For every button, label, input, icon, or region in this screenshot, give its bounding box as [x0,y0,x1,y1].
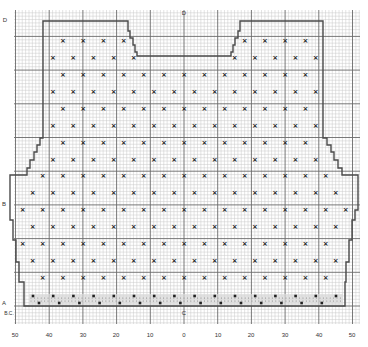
svg-text:×: × [201,206,207,214]
svg-text:×: × [80,139,86,147]
svg-text:×: × [262,172,268,180]
svg-text:×: × [191,156,197,164]
svg-text:×: × [272,189,278,197]
svg-text:×: × [272,88,278,96]
axis-tick-label: 30 [282,332,289,338]
svg-text:×: × [262,71,268,79]
svg-text:×: × [30,189,36,197]
svg-text:×: × [242,206,248,214]
svg-text:×: × [40,240,46,248]
svg-text:×: × [111,257,117,265]
left-bottom-label-a: A [2,300,6,306]
svg-text:×: × [80,206,86,214]
svg-text:×: × [272,122,278,130]
axis-tick-label: 50 [12,332,19,338]
svg-text:×: × [252,223,258,231]
svg-text:×: × [242,37,248,45]
svg-text:×: × [272,156,278,164]
svg-text:×: × [90,88,96,96]
svg-text:×: × [151,223,157,231]
svg-text:×: × [161,274,167,282]
top-center-label: D [182,10,186,16]
svg-text:×: × [131,223,137,231]
svg-text:×: × [121,139,127,147]
svg-text:×: × [302,105,308,113]
svg-text:×: × [302,37,308,45]
svg-text:×: × [171,156,177,164]
svg-text:×: × [90,189,96,197]
svg-text:×: × [131,122,137,130]
svg-text:×: × [60,71,66,79]
svg-text:×: × [181,274,187,282]
svg-text:×: × [70,189,76,197]
svg-text:×: × [111,156,117,164]
svg-text:×: × [282,37,288,45]
svg-text:×: × [60,139,66,147]
svg-text:×: × [131,156,137,164]
svg-text:×: × [181,240,187,248]
svg-text:×: × [302,172,308,180]
svg-text:×: × [282,206,288,214]
svg-text:×: × [40,274,46,282]
svg-text:×: × [232,223,238,231]
svg-text:×: × [262,240,268,248]
svg-text:×: × [30,223,36,231]
svg-text:×: × [302,139,308,147]
svg-text:×: × [272,54,278,62]
svg-text:×: × [313,257,319,265]
svg-text:×: × [181,172,187,180]
svg-text:×: × [242,172,248,180]
svg-text:×: × [20,240,26,248]
svg-text:×: × [212,223,218,231]
svg-text:×: × [60,240,66,248]
svg-text:×: × [141,71,147,79]
svg-text:×: × [121,206,127,214]
svg-text:×: × [191,88,197,96]
svg-text:×: × [282,240,288,248]
svg-text:×: × [252,189,258,197]
svg-text:×: × [191,223,197,231]
svg-text:×: × [151,122,157,130]
axis-tick-label: 10 [215,332,222,338]
svg-text:×: × [50,223,56,231]
svg-text:×: × [282,274,288,282]
svg-text:×: × [212,88,218,96]
axis-tick-label: 0 [182,332,185,338]
svg-text:×: × [181,71,187,79]
svg-text:×: × [141,206,147,214]
svg-text:×: × [222,172,228,180]
svg-text:×: × [131,88,137,96]
svg-text:×: × [50,257,56,265]
svg-text:×: × [242,105,248,113]
svg-text:×: × [242,240,248,248]
ribbing-band [29,294,343,306]
svg-text:×: × [141,139,147,147]
svg-text:×: × [181,206,187,214]
svg-text:×: × [222,240,228,248]
svg-text:×: × [151,189,157,197]
svg-text:×: × [181,105,187,113]
knitting-chart: ××××××××××××××××××××××××××××××××××××××××… [0,0,368,347]
svg-text:×: × [50,122,56,130]
svg-text:×: × [292,156,298,164]
svg-text:×: × [222,105,228,113]
svg-text:×: × [323,206,329,214]
svg-text:×: × [201,139,207,147]
svg-text:×: × [242,71,248,79]
svg-text:×: × [232,189,238,197]
svg-text:×: × [201,105,207,113]
svg-text:×: × [161,206,167,214]
svg-text:×: × [121,37,127,45]
svg-text:×: × [302,206,308,214]
svg-text:×: × [121,172,127,180]
svg-text:×: × [90,156,96,164]
svg-text:×: × [292,122,298,130]
svg-text:×: × [201,240,207,248]
svg-text:×: × [171,223,177,231]
svg-text:×: × [70,257,76,265]
svg-text:×: × [60,172,66,180]
axis-tick-label: 10 [147,332,154,338]
svg-text:×: × [121,71,127,79]
svg-text:×: × [272,257,278,265]
svg-text:×: × [80,240,86,248]
